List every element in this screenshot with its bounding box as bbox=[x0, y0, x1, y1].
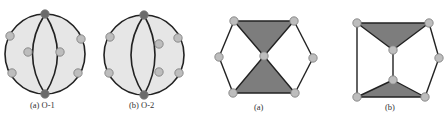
outer-circle bbox=[5, 14, 85, 94]
graph-node bbox=[56, 48, 64, 56]
caption-o1: (a) O-1 bbox=[30, 100, 55, 110]
graph-edge bbox=[219, 57, 233, 93]
shaded-triangle bbox=[233, 56, 295, 93]
graph-edge bbox=[219, 21, 234, 57]
graph-edge bbox=[294, 21, 313, 58]
graph-edge bbox=[425, 58, 439, 97]
graph-node bbox=[74, 69, 82, 77]
graph-node bbox=[353, 93, 361, 101]
graph-node bbox=[260, 52, 268, 60]
caption-hex-a: (a) bbox=[254, 102, 264, 112]
graph-node bbox=[215, 53, 223, 61]
graph-node bbox=[290, 17, 298, 25]
graph-node bbox=[175, 69, 183, 77]
graph-edge bbox=[429, 23, 439, 58]
graph-node bbox=[435, 54, 443, 62]
graph-node bbox=[389, 46, 397, 54]
graph-edge bbox=[295, 58, 313, 93]
graph-node bbox=[309, 54, 317, 62]
graph-node bbox=[229, 89, 237, 97]
graph-node bbox=[421, 93, 429, 101]
graph-node bbox=[106, 33, 114, 41]
caption-o2: (b) O-2 bbox=[129, 100, 154, 110]
panel-o2: (b) O-2 bbox=[104, 11, 184, 110]
graph-node bbox=[230, 17, 238, 25]
panel-hex-a: (a) bbox=[215, 17, 317, 112]
diagram-canvas: (a) O-1(b) O-2(a)(b) bbox=[0, 0, 444, 129]
pole-node bbox=[41, 10, 49, 18]
pole-node bbox=[41, 90, 49, 98]
panel-hex-b: (b) bbox=[353, 19, 443, 112]
graph-node bbox=[24, 48, 32, 56]
graph-node bbox=[8, 69, 16, 77]
graph-node bbox=[174, 34, 182, 42]
graph-node bbox=[105, 69, 113, 77]
graph-node bbox=[77, 35, 85, 43]
graph-node bbox=[155, 40, 163, 48]
panel-o1: (a) O-1 bbox=[5, 10, 85, 110]
graph-node bbox=[6, 32, 14, 40]
caption-hex-b: (b) bbox=[385, 102, 395, 112]
outer-circle bbox=[104, 15, 184, 95]
pole-node bbox=[140, 11, 148, 19]
graph-node bbox=[353, 19, 361, 27]
shaded-triangle bbox=[234, 21, 294, 56]
graph-node bbox=[291, 89, 299, 97]
graph-node bbox=[155, 68, 163, 76]
graph-node bbox=[389, 76, 397, 84]
pole-node bbox=[140, 91, 148, 99]
graph-node bbox=[425, 19, 433, 27]
